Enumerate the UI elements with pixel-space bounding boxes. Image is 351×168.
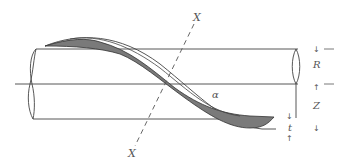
dimension-marks [324, 49, 334, 84]
t-top-arrow: ↓ [286, 112, 293, 121]
label-x-bottom: X [127, 147, 137, 160]
helix-blade-diagram: X X α ↓ R ↑ Z ↓ ↓ t ↑ [0, 0, 351, 168]
r-top-arrow: ↓ [313, 45, 320, 54]
label-alpha: α [212, 89, 219, 100]
label-r: R [312, 59, 321, 70]
r-bottom-arrow: ↑ [313, 83, 320, 92]
helical-blade [45, 38, 276, 129]
blade-inner-edge [70, 38, 240, 116]
label-z: Z [312, 100, 321, 111]
right-end-ellipse [292, 49, 300, 84]
label-t: t [288, 122, 293, 133]
z-bottom-arrow: ↓ [313, 124, 320, 133]
t-bottom-arrow: ↑ [286, 134, 293, 143]
label-x-top: X [192, 11, 202, 24]
cylinder [15, 49, 300, 119]
